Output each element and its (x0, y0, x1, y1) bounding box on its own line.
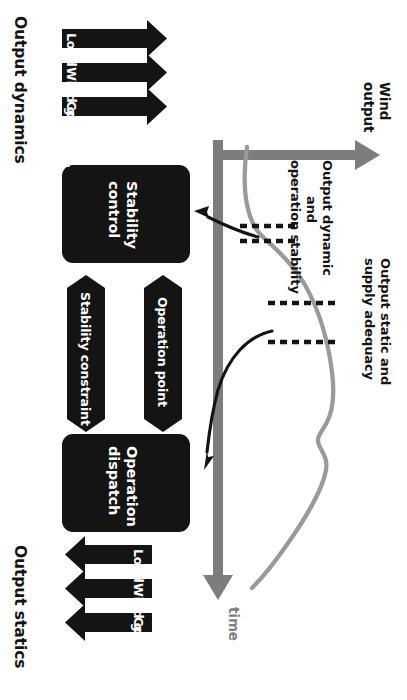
operation-dispatch-label-line2: dispatch (106, 446, 121, 515)
chart-annotation-dynamic-line2: and (304, 196, 318, 223)
input-arrow-bottom-load-label: Load (132, 549, 145, 583)
section-label-output-dynamics: Output dynamics (12, 16, 28, 164)
chart-annotation-dynamic-line3: operation stability (288, 160, 302, 294)
operation-dispatch-label-line1: Operation (124, 446, 139, 527)
diagram-canvas (0, 0, 407, 700)
chart-x-axis-label-line2: output (362, 82, 376, 132)
chart-annotation-dynamic-line1: Output dynamic (320, 160, 334, 276)
input-arrow-top-con-gen-label: Con. Gen. (65, 101, 78, 168)
input-arrow-top-load-label: Load (65, 33, 78, 67)
section-label-output-statics: Output statics (12, 545, 28, 668)
middle-arrow-stability-constraint-label: Stability constraint (79, 292, 92, 426)
chart-y-axis-label-time: time (227, 607, 241, 641)
stability-control-label-line1: Stability (124, 181, 139, 249)
chart-annotation-static-line2: supply adequacy (362, 258, 376, 380)
chart-annotation-static-line1: Output static and (378, 258, 392, 385)
stability-control-label-line2: control (106, 181, 121, 238)
chart-x-axis-label-line1: Wind (378, 82, 392, 120)
middle-arrow-operation-point-label: Operation point (156, 297, 169, 407)
input-arrow-bottom-con-gen-label: Con. Gen. (132, 617, 145, 684)
